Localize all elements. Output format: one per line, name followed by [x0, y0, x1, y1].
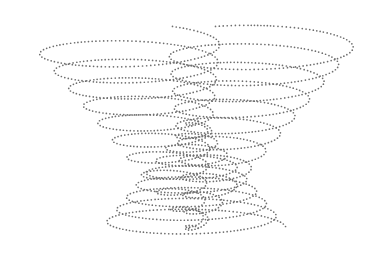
lower-cone-helix: [106, 117, 286, 235]
artwork-canvas: [0, 0, 388, 264]
right-wing-helix: [169, 24, 354, 230]
dotted-helix-illustration: [0, 0, 388, 264]
left-wing-helix: [39, 26, 221, 229]
